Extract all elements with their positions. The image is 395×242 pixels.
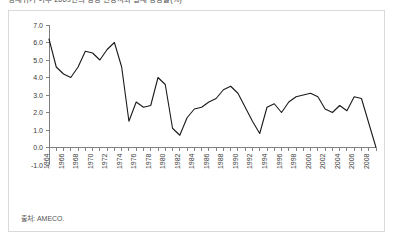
svg-text:1972: 1972 (101, 153, 108, 169)
chart-card: 7.06.05.04.03.02.01.00.0-1.0196419661968… (8, 10, 385, 232)
svg-text:2.0: 2.0 (33, 109, 43, 116)
svg-text:1976: 1976 (130, 153, 137, 169)
chart-page: 경제위기 이후 2009년의 성장 전망치와 실제 성장률(%) 7.06.05… (0, 0, 395, 242)
chart-title-cropped: 경제위기 이후 2009년의 성장 전망치와 실제 성장률(%) (8, 0, 268, 8)
svg-text:1992: 1992 (246, 153, 253, 169)
svg-text:0.0: 0.0 (33, 144, 43, 151)
svg-text:1996: 1996 (276, 153, 283, 169)
svg-text:1980: 1980 (159, 153, 166, 169)
svg-text:7.0: 7.0 (33, 22, 43, 29)
svg-text:1990: 1990 (232, 153, 239, 169)
svg-text:1964: 1964 (43, 153, 50, 169)
svg-text:1978: 1978 (145, 153, 152, 169)
line-chart: 7.06.05.04.03.02.01.00.0-1.0196419661968… (9, 11, 386, 207)
svg-text:1998: 1998 (290, 153, 297, 169)
svg-text:1984: 1984 (188, 153, 195, 169)
svg-text:1982: 1982 (174, 153, 181, 169)
svg-text:2006: 2006 (348, 153, 355, 169)
svg-text:1988: 1988 (217, 153, 224, 169)
svg-text:2004: 2004 (334, 153, 341, 169)
source-note: 출처: AMECO. (21, 214, 65, 224)
svg-text:2008: 2008 (363, 153, 370, 169)
svg-text:1966: 1966 (58, 153, 65, 169)
svg-text:2000: 2000 (305, 153, 312, 169)
svg-text:1974: 1974 (116, 153, 123, 169)
svg-text:1994: 1994 (261, 153, 268, 169)
svg-text:-1.0: -1.0 (31, 162, 43, 169)
chart-title-text: 경제위기 이후 2009년의 성장 전망치와 실제 성장률(%) (8, 0, 268, 4)
svg-text:3.0: 3.0 (33, 92, 43, 99)
svg-text:5.0: 5.0 (33, 57, 43, 64)
svg-text:1968: 1968 (72, 153, 79, 169)
svg-text:1.0: 1.0 (33, 127, 43, 134)
svg-text:4.0: 4.0 (33, 74, 43, 81)
svg-text:1986: 1986 (203, 153, 210, 169)
svg-text:2002: 2002 (319, 153, 326, 169)
plot-area: 7.06.05.04.03.02.01.00.0-1.0196419661968… (9, 11, 386, 207)
svg-text:6.0: 6.0 (33, 39, 43, 46)
svg-text:1970: 1970 (87, 153, 94, 169)
